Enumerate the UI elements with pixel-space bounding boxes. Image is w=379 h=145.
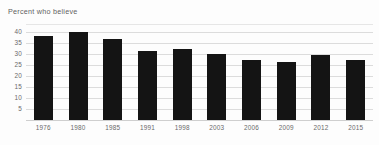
x-axis-tick-labels: 1976198019851991199820032006200920122015 bbox=[26, 124, 373, 138]
top-rule-divider bbox=[26, 24, 373, 25]
bar bbox=[311, 55, 330, 120]
x-axis-tick-label: 2009 bbox=[269, 124, 303, 131]
x-axis-tick-label: 2015 bbox=[339, 124, 373, 131]
chart-title: Percent who believe bbox=[8, 7, 77, 16]
x-axis-tick-label: 2003 bbox=[200, 124, 234, 131]
y-axis-tick-label: 40 bbox=[14, 28, 22, 35]
x-axis-baseline bbox=[26, 120, 373, 121]
bar bbox=[69, 32, 88, 120]
chart-page: Percent who believe 403530252015105 1976… bbox=[0, 0, 379, 145]
x-axis-tick-label: 1991 bbox=[130, 124, 164, 131]
y-axis-tick-label: 30 bbox=[14, 50, 22, 57]
bar bbox=[346, 60, 365, 120]
bar bbox=[34, 36, 53, 120]
bar bbox=[103, 39, 122, 120]
x-axis-tick-label: 2006 bbox=[235, 124, 269, 131]
x-axis-tick-label: 1985 bbox=[96, 124, 130, 131]
bar bbox=[138, 51, 157, 120]
y-axis-tick-label: 35 bbox=[14, 39, 22, 46]
x-axis-tick-label: 1980 bbox=[61, 124, 95, 131]
x-axis-tick-label: 2012 bbox=[304, 124, 338, 131]
y-axis-tick-label: 15 bbox=[14, 83, 22, 90]
bar bbox=[173, 49, 192, 121]
bar bbox=[242, 60, 261, 121]
y-axis-tick-label: 5 bbox=[18, 105, 22, 112]
bar bbox=[207, 54, 226, 120]
plot-area: 403530252015105 bbox=[26, 32, 373, 120]
y-axis-tick-label: 25 bbox=[14, 61, 22, 68]
x-axis-tick-label: 1998 bbox=[165, 124, 199, 131]
bar bbox=[277, 62, 296, 120]
x-axis-tick-label: 1976 bbox=[26, 124, 60, 131]
y-axis-tick-label: 20 bbox=[14, 72, 22, 79]
y-axis-tick-label: 10 bbox=[14, 94, 22, 101]
